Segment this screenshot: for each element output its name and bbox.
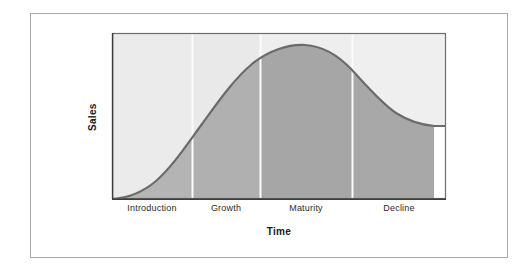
- y-axis-title: Sales: [86, 92, 100, 142]
- stage-label-introduction: Introduction: [112, 203, 192, 213]
- stage-label-maturity: Maturity: [260, 203, 352, 213]
- stage-label-decline: Decline: [352, 203, 446, 213]
- x-axis-title: Time: [112, 226, 446, 237]
- product-life-cycle-figure: Sales Introduction Growth Maturity Decli…: [0, 0, 532, 275]
- stage-label-growth: Growth: [192, 203, 260, 213]
